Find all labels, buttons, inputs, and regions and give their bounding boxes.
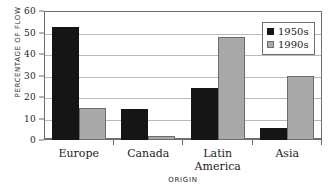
- x-axis-line: [45, 138, 321, 139]
- x-axis-tick-slot: [44, 140, 114, 146]
- x-axis-tick-labels: EuropeCanadaLatinAmericaAsia: [44, 147, 322, 173]
- x-axis-tick-label: Asia: [253, 147, 323, 173]
- legend-swatch-icon: [267, 41, 274, 48]
- bar-chart: PERCENTAGE OF FLOW 6050403020100 EuropeC…: [0, 0, 330, 192]
- x-axis-tick-slot: [114, 140, 184, 146]
- y-axis-tick-label: 60: [24, 6, 36, 16]
- legend-label: 1990s: [278, 39, 309, 50]
- x-axis-tick-label: Canada: [114, 147, 184, 173]
- x-axis-tick-label-line: America: [183, 160, 253, 173]
- gridline: [45, 120, 321, 121]
- legend-item: 1950s: [267, 25, 309, 38]
- x-axis-tick-slot: [253, 140, 323, 146]
- x-axis-tick-label-line: Canada: [114, 147, 184, 160]
- y-axis-tick-labels: 6050403020100: [0, 0, 44, 141]
- x-axis-tick-slot: [183, 140, 253, 146]
- y-axis-tick-label: 0: [30, 135, 36, 145]
- gridline: [45, 98, 321, 99]
- gridline: [45, 55, 321, 56]
- x-axis-tick-label: LatinAmerica: [183, 147, 253, 173]
- y-axis-tick-label: 40: [24, 49, 36, 59]
- legend-swatch-icon: [267, 28, 274, 35]
- y-axis-tick-label: 10: [24, 114, 36, 124]
- x-axis-tick-mark: [321, 140, 322, 145]
- x-axis-tick-label-line: Latin: [183, 147, 253, 160]
- x-axis-tick-label-line: Asia: [253, 147, 323, 160]
- x-axis-tick-marks: [44, 140, 322, 146]
- x-axis-tick-label: Europe: [44, 147, 114, 173]
- legend-label: 1950s: [278, 26, 309, 37]
- legend-item: 1990s: [267, 38, 309, 51]
- y-axis-tick-label: 30: [24, 71, 36, 81]
- x-axis-tick-label-line: Europe: [44, 147, 114, 160]
- x-axis-title: ORIGIN: [44, 176, 322, 184]
- y-axis-tick-label: 50: [24, 28, 36, 38]
- y-axis-tick-label: 20: [24, 92, 36, 102]
- gridline: [45, 77, 321, 78]
- legend: 1950s1990s: [262, 22, 315, 55]
